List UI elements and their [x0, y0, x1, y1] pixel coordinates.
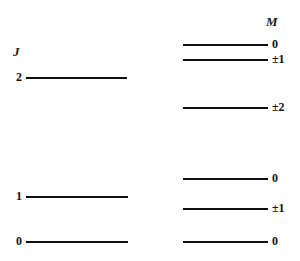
m-level-label: 0 [272, 172, 278, 184]
m-level-label: ±1 [272, 53, 285, 65]
m-level-label: ±2 [272, 101, 285, 113]
energy-level-diagram: J M 210 0±1±20±10 [0, 0, 300, 261]
m-level-label: 0 [272, 235, 278, 247]
j-level-line [26, 241, 128, 243]
m-level-line [183, 44, 268, 46]
j-level-label: 1 [8, 190, 22, 202]
j-level-label: 0 [8, 235, 22, 247]
column-header-m: M [266, 15, 278, 28]
m-level-line [183, 59, 268, 61]
column-header-j: J [13, 45, 20, 58]
j-level-line [26, 196, 128, 198]
m-level-label: ±1 [272, 202, 285, 214]
j-level-label: 2 [8, 71, 22, 83]
m-level-line [183, 208, 268, 210]
m-level-line [183, 107, 268, 109]
m-level-line [183, 241, 268, 243]
m-level-line [183, 178, 268, 180]
j-level-line [26, 77, 127, 79]
m-level-label: 0 [272, 38, 278, 50]
